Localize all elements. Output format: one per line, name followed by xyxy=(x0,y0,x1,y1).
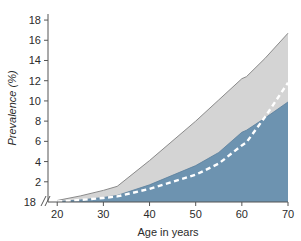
y-tick-label: 18 xyxy=(29,14,41,26)
x-tick-label: 50 xyxy=(190,208,202,220)
plot-areas xyxy=(57,33,288,202)
x-axis-ticks xyxy=(57,202,288,206)
y-tick-label: 12 xyxy=(29,75,41,87)
x-axis-tick-labels: 203040506070 xyxy=(51,208,294,220)
x-tick-label: 40 xyxy=(143,208,155,220)
y-tick-label: 16 xyxy=(29,34,41,46)
chart-figure: 24681012141618 203040506070 18 Age in ye… xyxy=(0,0,301,241)
y-tick-label: 4 xyxy=(35,156,41,168)
axis-break-icon xyxy=(41,196,50,206)
x-tick-label: 60 xyxy=(236,208,248,220)
y-axis-origin-label: 18 xyxy=(24,196,36,208)
y-axis-title: Prevalence (%) xyxy=(6,70,18,146)
y-tick-label: 10 xyxy=(29,95,41,107)
y-axis-tick-labels: 24681012141618 xyxy=(29,14,41,188)
x-tick-label: 20 xyxy=(51,208,63,220)
x-tick-label: 70 xyxy=(282,208,294,220)
y-tick-label: 8 xyxy=(35,115,41,127)
y-tick-label: 14 xyxy=(29,54,41,66)
x-tick-label: 30 xyxy=(97,208,109,220)
y-tick-label: 2 xyxy=(35,176,41,188)
prevalence-area-chart: 24681012141618 203040506070 18 Age in ye… xyxy=(0,0,301,241)
y-axis-ticks xyxy=(44,20,48,182)
y-tick-label: 6 xyxy=(35,135,41,147)
x-axis-title: Age in years xyxy=(137,226,199,238)
